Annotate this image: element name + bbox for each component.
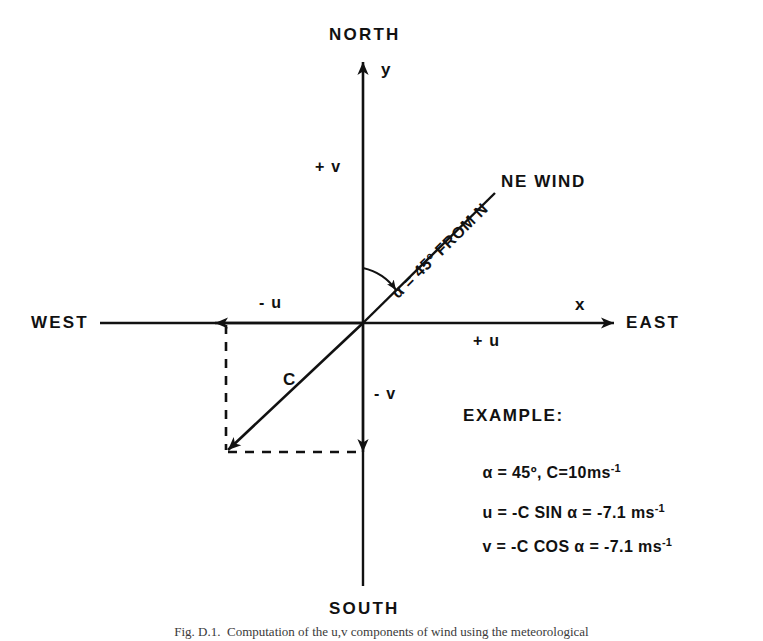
- label-plus-u: + u: [473, 333, 500, 349]
- label-y-axis: y: [381, 61, 391, 78]
- example-line-3: v = -C COS α = -7.1 ms-1: [463, 521, 672, 571]
- label-east: EAST: [626, 314, 680, 331]
- example-heading: EXAMPLE:: [463, 407, 564, 424]
- label-minus-v: - v: [374, 386, 396, 402]
- label-speed-vector-c: C: [283, 371, 295, 388]
- example-line-1-superscript: -1: [611, 462, 621, 474]
- figure-caption: Fig. D.1. Computation of the u,v compone…: [0, 624, 763, 641]
- wind-vector-figure: NORTH SOUTH EAST WEST y x + v - v + u - …: [0, 0, 763, 641]
- example-line-1-main: α = 45º, C=10ms: [482, 464, 610, 481]
- label-plus-v: + v: [315, 159, 341, 175]
- label-ne-wind: NE WIND: [501, 173, 586, 190]
- example-line-3-main: v = -C COS α = -7.1 ms: [482, 538, 662, 555]
- label-south: SOUTH: [329, 600, 400, 617]
- label-north: NORTH: [329, 26, 400, 43]
- example-line-3-superscript: -1: [662, 536, 672, 548]
- wind-speed-vector-c: [228, 323, 363, 450]
- example-line-2-superscript: -1: [655, 502, 665, 514]
- label-minus-u: - u: [259, 295, 282, 311]
- example-line-2-main: u = -C SIN α = -7.1 ms: [482, 504, 654, 521]
- label-west: WEST: [31, 314, 89, 331]
- label-x-axis: x: [575, 296, 585, 313]
